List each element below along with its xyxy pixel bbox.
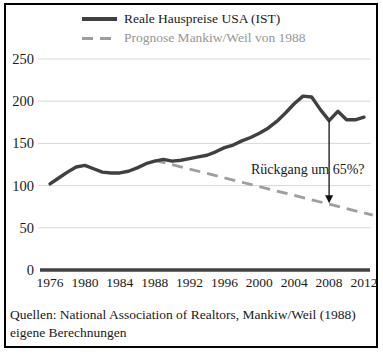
x-tick-label: 1976 <box>32 275 68 291</box>
legend-dashed-line-swatch <box>82 37 117 40</box>
chart-legend: Reale Hauspreise USA (IST) Prognose Mank… <box>82 11 306 46</box>
legend-label-forecast: Prognose Mankiw/Weil von 1988 <box>124 30 306 46</box>
chart-svg <box>0 0 383 358</box>
sources-note: Quellen: National Association of Realtor… <box>10 306 356 342</box>
annotation-arrow-head <box>325 195 333 203</box>
figure: Reale Hauspreise USA (IST) Prognose Mank… <box>0 0 383 358</box>
y-tick-label: 150 <box>4 134 34 152</box>
x-tick-label: 1980 <box>67 275 103 291</box>
legend-row-forecast: Prognose Mankiw/Weil von 1988 <box>82 30 306 46</box>
x-tick-label: 2012 <box>346 275 382 291</box>
y-tick-label: 250 <box>4 50 34 68</box>
x-tick-label: 1988 <box>137 275 173 291</box>
x-tick-label: 2004 <box>276 275 312 291</box>
y-tick-label: 0 <box>4 261 34 279</box>
y-tick-label: 100 <box>4 177 34 195</box>
legend-solid-line-swatch <box>82 17 117 21</box>
annotation-label: Rückgang um 65%? <box>251 162 365 178</box>
x-tick-label: 1996 <box>206 275 242 291</box>
legend-row-actual: Reale Hauspreise USA (IST) <box>82 11 306 27</box>
legend-label-actual: Reale Hauspreise USA (IST) <box>124 11 280 27</box>
x-tick-label: 2008 <box>311 275 347 291</box>
y-tick-label: 200 <box>4 92 34 110</box>
y-tick-label: 50 <box>4 219 34 237</box>
sources-line-2: eigene Berechnungen <box>10 324 356 342</box>
x-tick-label: 2000 <box>241 275 277 291</box>
x-tick-label: 1984 <box>102 275 138 291</box>
sources-line-1: Quellen: National Association of Realtor… <box>10 306 356 324</box>
x-tick-label: 1992 <box>172 275 208 291</box>
